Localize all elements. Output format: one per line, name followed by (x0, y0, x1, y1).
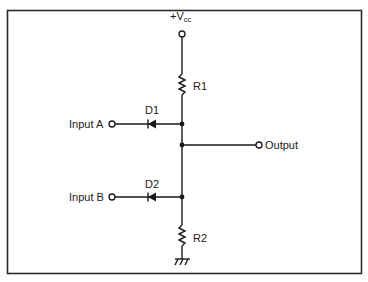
resistor-r2-icon (179, 225, 185, 246)
input-b-terminal (109, 194, 115, 200)
supply-label: +Vcc (170, 10, 192, 24)
d2-label: D2 (145, 178, 159, 190)
diagram-frame (8, 11, 362, 274)
d1-label: D1 (145, 104, 159, 116)
resistor-r1-icon (179, 74, 185, 95)
diode-d1-icon (148, 120, 156, 129)
output-label: Output (265, 139, 298, 151)
output-terminal (256, 142, 262, 148)
diode-d2-icon (148, 193, 156, 202)
input-b-label: Input B (69, 191, 104, 203)
vcc-terminal (179, 31, 185, 37)
input-a-label: Input A (69, 118, 104, 130)
input-a-terminal (109, 121, 115, 127)
r2-label: R2 (193, 232, 207, 244)
ground-icon (175, 259, 190, 265)
r1-label: R1 (193, 80, 207, 92)
